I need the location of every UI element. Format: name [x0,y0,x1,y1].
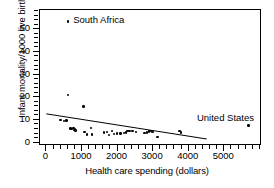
x-axis-minor-tick [138,145,139,149]
data-point [128,130,130,132]
y-axis-major-tick [33,28,39,29]
y-axis-minor-tick [34,55,38,56]
y-axis-minor-tick [34,101,38,102]
y-axis-minor-tick [34,60,38,61]
x-axis-minor-tick [216,145,217,149]
x-axis-minor-tick [202,145,203,149]
data-point [74,129,76,131]
data-point [86,133,88,135]
data-point [180,131,182,133]
x-axis-minor-tick [259,145,260,149]
x-axis-minor-tick [145,145,146,149]
x-axis-minor-tick [181,145,182,149]
data-point [247,124,249,126]
x-axis-minor-tick [230,145,231,149]
x-axis-minor-tick [159,145,160,149]
data-point [65,119,67,121]
x-axis-minor-tick [195,145,196,149]
y-axis-minor-tick [34,24,38,25]
x-axis-minor-tick [95,145,96,149]
y-axis-minor-tick [34,42,38,43]
y-axis-tick-label: 0 [0,137,30,147]
y-axis-minor-tick [34,78,38,79]
y-axis-tick-label: 40 [0,46,30,56]
x-axis-tick-label: 5000 [203,151,243,161]
y-axis-major-tick [33,96,39,97]
data-point [111,130,113,132]
x-axis-minor-tick [173,145,174,149]
plot-area [39,9,261,145]
y-axis-minor-tick [34,114,38,115]
data-point [59,119,61,121]
scatter-plot-figure: Infant mortality/1000 live births Health… [0,0,274,188]
data-point [103,131,105,133]
data-point [106,131,108,133]
data-point [119,132,121,134]
y-axis-major-tick [33,74,39,75]
annotation-south-africa: South Africa [73,15,124,25]
y-axis-minor-tick [34,128,38,129]
x-axis-tick-label: 3000 [132,151,172,161]
y-axis-minor-tick [34,110,38,111]
y-axis-minor-tick [34,123,38,124]
y-axis-minor-tick [34,15,38,16]
x-axis-minor-tick [102,145,103,149]
x-axis-tick-label: 4000 [168,151,208,161]
x-axis-minor-tick [166,145,167,149]
y-axis-minor-tick [34,37,38,38]
x-axis-tick-label: 0 [25,151,65,161]
data-point [82,105,84,107]
x-axis-minor-tick [252,145,253,149]
y-axis-tick-label: 10 [0,114,30,124]
x-axis-tick-label: 2000 [97,151,137,161]
x-axis-minor-tick [124,145,125,149]
x-axis-minor-tick [131,145,132,149]
y-axis-minor-tick [34,92,38,93]
x-axis-minor-tick [245,145,246,149]
data-point [67,20,69,22]
data-point [91,133,93,135]
y-axis-minor-tick [34,105,38,106]
y-axis-tick-label: 50 [0,23,30,33]
y-axis-minor-tick [34,83,38,84]
trend-line [40,10,260,144]
y-axis-minor-tick [34,33,38,34]
data-point [116,132,118,134]
x-axis-minor-tick [74,145,75,149]
x-axis-minor-tick [53,145,54,149]
y-axis-tick-label: 30 [0,69,30,79]
y-axis-minor-tick [34,19,38,20]
y-axis-minor-tick [34,133,38,134]
y-axis-major-tick [33,142,39,143]
y-axis-minor-tick [34,65,38,66]
x-axis-minor-tick [109,145,110,149]
data-point [131,130,133,132]
y-axis-tick-label: 20 [0,91,30,101]
y-axis-major-tick [33,51,39,52]
y-axis-minor-tick [34,87,38,88]
y-axis-major-tick [33,119,39,120]
x-axis-minor-tick [67,145,68,149]
data-point [156,136,158,138]
annotation-united-states: United States [197,113,254,123]
x-axis-label: Health care spending (dollars) [34,166,260,176]
x-axis-minor-tick [60,145,61,149]
x-axis-minor-tick [238,145,239,149]
y-axis-minor-tick [34,69,38,70]
y-axis-minor-tick [34,137,38,138]
x-axis-minor-tick [88,145,89,149]
y-axis-minor-tick [34,10,38,11]
y-axis-minor-tick [34,46,38,47]
x-axis-tick-label: 1000 [61,151,101,161]
x-axis-minor-tick [209,145,210,149]
